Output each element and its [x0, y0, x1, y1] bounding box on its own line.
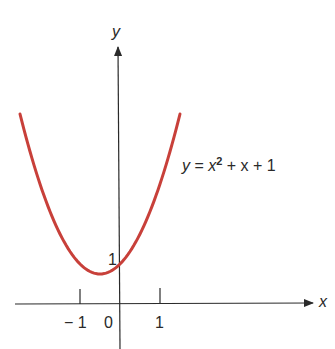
x-axis-label: x — [319, 294, 327, 310]
x-tick-label-0: 0 — [104, 315, 113, 331]
parabola-curve — [20, 114, 180, 274]
y-axis-label: y — [112, 24, 120, 40]
eq-y: y — [182, 157, 190, 174]
plot-canvas — [0, 0, 335, 349]
x-tick-label-1: 1 — [155, 315, 164, 331]
eq-exponent: 2 — [216, 155, 222, 167]
eq-rest: + x + 1 — [227, 157, 276, 174]
y-tick-label-1: 1 — [108, 252, 117, 268]
x-tick-label-neg1: − 1 — [64, 315, 87, 331]
x-axis — [15, 303, 313, 304]
eq-equals: = — [194, 157, 203, 174]
equation-label: y = x2 + x + 1 — [182, 153, 276, 174]
